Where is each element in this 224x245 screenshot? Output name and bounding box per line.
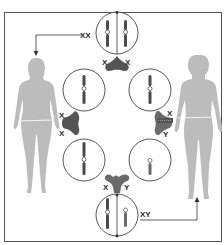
label-xy-arrow: XY [140, 210, 151, 219]
svg-text:Y: Y [163, 130, 169, 139]
label-xx-arrow: XX [80, 31, 91, 40]
svg-text:X: X [102, 58, 108, 67]
chromosome-x [106, 20, 110, 47]
connector-top: X X [102, 56, 131, 71]
cell-top-xx [96, 11, 138, 54]
svg-text:X: X [59, 129, 65, 138]
sex-determination-diagram: XX XY X X [0, 0, 224, 245]
svg-text:X: X [103, 183, 109, 192]
cell-lower-left [63, 139, 105, 181]
svg-text:X: X [125, 58, 131, 67]
cell-lower-right [129, 139, 171, 181]
svg-text:Y: Y [124, 183, 130, 192]
svg-text:X: X [167, 109, 173, 118]
cell-upper-left [63, 69, 105, 111]
chromosome-y [124, 208, 128, 227]
chromosome-x [124, 20, 128, 47]
connector-bottom: X Y [103, 175, 130, 193]
chromosome-x [106, 198, 110, 229]
svg-text:X: X [59, 111, 65, 120]
cell-upper-right [129, 69, 171, 111]
